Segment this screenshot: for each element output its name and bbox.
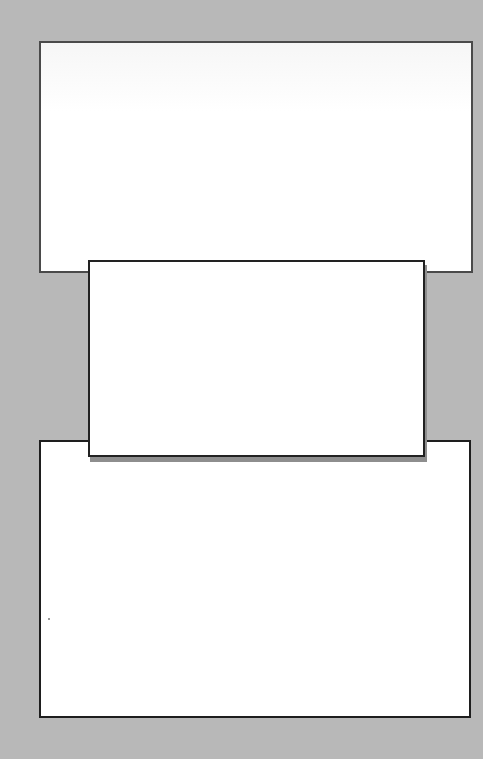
- top-panel: [39, 41, 473, 273]
- stray-dot: [48, 618, 50, 620]
- middle-panel: [88, 260, 425, 457]
- bottom-panel: [39, 440, 471, 718]
